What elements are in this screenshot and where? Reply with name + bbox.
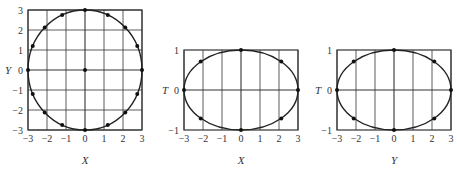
svg-text:−3: −3	[23, 133, 34, 144]
svg-text:−3: −3	[332, 133, 343, 144]
data-point	[279, 116, 283, 120]
svg-text:3: 3	[449, 133, 454, 144]
data-point	[352, 116, 356, 120]
data-point	[31, 44, 35, 48]
svg-text:0: 0	[327, 85, 332, 96]
svg-text:−1: −1	[61, 133, 72, 144]
ellipse-plot-yt: −3−2−1012310−1	[321, 45, 453, 145]
svg-text:−1: −1	[168, 125, 179, 136]
data-point	[239, 128, 243, 132]
data-point	[83, 68, 87, 72]
data-point	[432, 60, 436, 64]
plot1-xlabel: X	[81, 154, 90, 166]
circle-plot: −3−2−101233210−1−2−3	[12, 5, 144, 145]
plot2-ylabel: T	[162, 84, 169, 96]
svg-text:−1: −1	[217, 133, 228, 144]
data-point	[182, 88, 186, 92]
data-point	[296, 88, 300, 92]
plot3-xlabel: Y	[391, 154, 399, 166]
data-point	[135, 44, 139, 48]
svg-text:0: 0	[18, 65, 23, 76]
data-point	[392, 48, 396, 52]
svg-text:0: 0	[83, 133, 88, 144]
data-point	[335, 88, 339, 92]
svg-text:−2: −2	[12, 105, 23, 116]
svg-text:2: 2	[277, 133, 282, 144]
data-point	[26, 68, 30, 72]
data-point	[106, 123, 110, 127]
data-point	[352, 60, 356, 64]
svg-text:1: 1	[102, 133, 107, 144]
svg-text:1: 1	[411, 133, 416, 144]
svg-text:3: 3	[296, 133, 301, 144]
plot2-xlabel: X	[237, 154, 246, 166]
svg-text:0: 0	[392, 133, 397, 144]
data-point	[83, 8, 87, 12]
data-point	[199, 116, 203, 120]
svg-text:0: 0	[239, 133, 244, 144]
data-point	[83, 128, 87, 132]
svg-text:−2: −2	[198, 133, 209, 144]
svg-text:−3: −3	[12, 125, 23, 136]
svg-text:−1: −1	[370, 133, 381, 144]
data-point	[449, 88, 453, 92]
figure: −3−2−101233210−1−2−3 −3−2−1012310−1 −3−2…	[0, 0, 457, 175]
svg-text:2: 2	[121, 133, 126, 144]
svg-text:3: 3	[18, 5, 23, 16]
data-point	[135, 92, 139, 96]
data-point	[60, 123, 64, 127]
svg-text:3: 3	[140, 133, 145, 144]
data-point	[43, 110, 47, 114]
data-point	[432, 116, 436, 120]
ellipse-plot-xt: −3−2−1012310−1	[168, 45, 300, 145]
svg-text:−3: −3	[179, 133, 190, 144]
svg-text:1: 1	[327, 45, 332, 56]
data-point	[239, 48, 243, 52]
svg-text:0: 0	[174, 85, 179, 96]
data-point	[199, 60, 203, 64]
svg-text:1: 1	[18, 45, 23, 56]
data-point	[392, 128, 396, 132]
data-point	[31, 92, 35, 96]
plot1-ylabel: Y	[5, 64, 13, 76]
svg-text:−1: −1	[321, 125, 332, 136]
data-point	[106, 13, 110, 17]
plot3-ylabel: T	[315, 84, 322, 96]
data-point	[140, 68, 144, 72]
data-point	[43, 26, 47, 30]
data-point	[279, 60, 283, 64]
svg-text:−1: −1	[12, 85, 23, 96]
svg-text:2: 2	[430, 133, 435, 144]
svg-text:1: 1	[258, 133, 263, 144]
data-point	[123, 26, 127, 30]
svg-text:2: 2	[18, 25, 23, 36]
svg-text:−2: −2	[42, 133, 53, 144]
svg-text:1: 1	[174, 45, 179, 56]
data-point	[60, 13, 64, 17]
data-point	[123, 110, 127, 114]
svg-text:−2: −2	[351, 133, 362, 144]
